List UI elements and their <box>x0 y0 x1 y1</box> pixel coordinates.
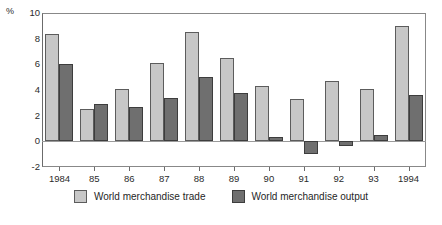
bar-output-87 <box>164 98 178 142</box>
bar-trade-85 <box>80 109 94 141</box>
x-axis-tick-label: 88 <box>194 174 205 184</box>
legend-label-trade: World merchandise trade <box>94 191 206 202</box>
x-axis-tick-mark <box>269 167 270 171</box>
x-axis-tick-mark <box>199 167 200 171</box>
bar-trade-93 <box>360 89 374 142</box>
x-axis-tick-mark <box>409 167 410 171</box>
y-axis-tick-label: -2 <box>16 162 40 172</box>
y-axis-unit-label: % <box>6 6 14 16</box>
x-axis-tick-mark <box>59 167 60 171</box>
y-axis-tick-label: 6 <box>16 59 40 69</box>
x-axis-tick-mark <box>129 167 130 171</box>
bar-trade-92 <box>325 81 339 141</box>
x-axis-tick-label: 89 <box>229 174 240 184</box>
bar-trade-86 <box>115 89 129 142</box>
bar-output-91 <box>304 141 318 154</box>
bar-output-92 <box>339 141 353 146</box>
legend-swatch-trade-icon <box>74 190 87 203</box>
bar-trade-1994 <box>395 26 409 142</box>
bar-output-93 <box>374 135 388 141</box>
x-axis-tick-label: 91 <box>299 174 310 184</box>
x-axis-tick-mark <box>94 167 95 171</box>
legend-item-output: World merchandise output <box>232 190 369 203</box>
x-axis-tick-label: 92 <box>333 174 344 184</box>
bar-trade-89 <box>220 58 234 141</box>
bar-trade-90 <box>255 86 269 141</box>
bar-trade-87 <box>150 63 164 141</box>
x-axis-tick-label: 93 <box>368 174 379 184</box>
bar-output-85 <box>94 104 108 141</box>
bar-output-1994 <box>409 95 423 141</box>
y-axis-tick-label: 4 <box>16 85 40 95</box>
x-axis-tick-label: 87 <box>159 174 170 184</box>
x-axis-tick-label: 85 <box>89 174 100 184</box>
legend-item-trade: World merchandise trade <box>74 190 206 203</box>
chart-legend: World merchandise trade World merchandis… <box>0 190 442 203</box>
x-axis-tick-mark <box>304 167 305 171</box>
y-axis-tick-label: 8 <box>16 34 40 44</box>
legend-label-output: World merchandise output <box>252 191 369 202</box>
bar-trade-1984 <box>45 34 59 142</box>
x-axis-tick-label: 90 <box>264 174 275 184</box>
zero-baseline <box>42 141 426 142</box>
x-axis-tick-label: 1994 <box>398 174 419 184</box>
x-axis-tick-mark <box>164 167 165 171</box>
y-axis-tick-label: 10 <box>16 8 40 18</box>
bar-output-90 <box>269 137 283 141</box>
bar-trade-91 <box>290 99 304 141</box>
x-axis-tick-mark <box>234 167 235 171</box>
source-note <box>4 215 304 225</box>
legend-swatch-output-icon <box>232 190 245 203</box>
y-axis-tick-label: 0 <box>16 136 40 146</box>
x-axis-tick-label: 1984 <box>49 174 70 184</box>
bar-trade-88 <box>185 32 199 141</box>
bar-output-89 <box>234 93 248 142</box>
x-axis-tick-mark <box>339 167 340 171</box>
x-axis-tick-label: 86 <box>124 174 135 184</box>
chart-container: % -20246810 19848586878889909192931994 W… <box>0 0 442 225</box>
y-axis-tick-label: 2 <box>16 111 40 121</box>
bar-output-86 <box>129 107 143 142</box>
x-axis-tick-mark <box>374 167 375 171</box>
bar-output-1984 <box>59 64 73 141</box>
bar-output-88 <box>199 77 213 141</box>
